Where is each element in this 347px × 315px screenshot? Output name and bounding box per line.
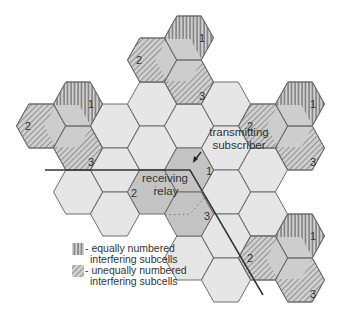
central-label-1: 1 bbox=[206, 165, 212, 177]
central-label-2: 2 bbox=[131, 187, 137, 199]
subcell-label: 1 bbox=[310, 230, 316, 242]
subcell-label: 1 bbox=[199, 32, 205, 44]
subcell-label: 3 bbox=[310, 156, 316, 168]
subcell-label: 2 bbox=[136, 54, 142, 66]
central-label-3: 3 bbox=[204, 210, 210, 222]
subcell-label: 3 bbox=[310, 288, 316, 300]
subcell-label: 2 bbox=[247, 252, 253, 264]
legend-equal-swatch bbox=[72, 243, 84, 255]
legend: - equally numbered interfering subcells … bbox=[72, 242, 187, 287]
transmitting-label: transmitting bbox=[209, 126, 268, 138]
subcell-label: 1 bbox=[310, 98, 316, 110]
subcell-label: 1 bbox=[88, 98, 94, 110]
receiving-label: receiving bbox=[142, 172, 188, 184]
hexagonal-cell-diagram: 123123123123 transmitting subscriber rec… bbox=[0, 0, 347, 315]
subcell-label: 2 bbox=[25, 120, 31, 132]
legend-unequal-line2: interfering subcells bbox=[90, 275, 178, 287]
subscriber-label: subscriber bbox=[212, 139, 265, 151]
legend-unequal-swatch bbox=[72, 265, 84, 277]
subcell-label: 3 bbox=[88, 156, 94, 168]
relay-label: relay bbox=[154, 185, 179, 197]
subcell-label: 3 bbox=[199, 90, 205, 102]
